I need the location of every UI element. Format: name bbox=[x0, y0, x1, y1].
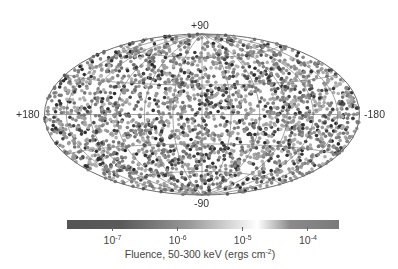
label-north-pole: +90 bbox=[191, 20, 209, 31]
colorbar-tick-mark bbox=[307, 227, 308, 231]
label-south-pole: -90 bbox=[194, 198, 209, 209]
colorbar-tick-label: 10-6 bbox=[169, 234, 187, 246]
colorbar bbox=[67, 220, 339, 229]
colorbar-tick-label: 10-4 bbox=[299, 234, 317, 246]
colorbar-tick-label: 10-5 bbox=[234, 234, 252, 246]
label-right-longitude: -180 bbox=[364, 109, 385, 120]
colorbar-tick-mark bbox=[242, 227, 243, 231]
sky-map-canvas bbox=[0, 0, 398, 215]
colorbar-tick-mark bbox=[177, 227, 178, 231]
colorbar-tick-mark bbox=[112, 227, 113, 231]
colorbar-label: Fluence, 50-300 keV (ergs cm-2) bbox=[125, 248, 275, 260]
colorbar-tick-label: 10-7 bbox=[104, 234, 122, 246]
label-left-longitude: +180 bbox=[16, 109, 40, 120]
